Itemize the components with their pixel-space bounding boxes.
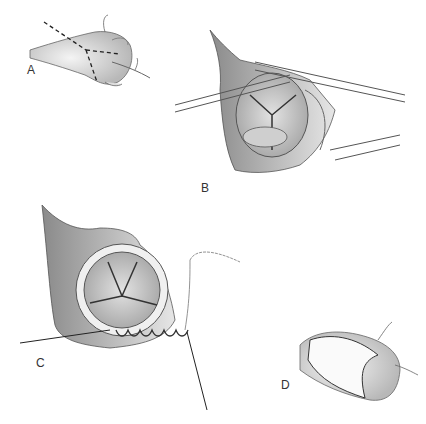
panel-label-c: C <box>36 356 45 370</box>
panel-c-drawing <box>20 205 240 410</box>
panel-d-drawing <box>300 322 418 400</box>
panel-b-drawing <box>175 30 405 172</box>
panel-label-d: D <box>281 378 290 392</box>
panel-label-b: B <box>201 181 209 195</box>
illustration-canvas <box>0 0 426 424</box>
panel-label-a: A <box>27 63 35 77</box>
panel-a-drawing <box>30 15 150 86</box>
